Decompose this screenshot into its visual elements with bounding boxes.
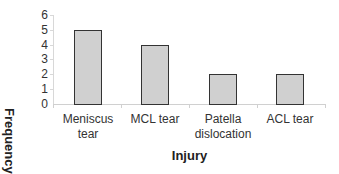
x-tick-mark [53, 104, 54, 108]
y-tick-mark [50, 74, 53, 75]
x-axis-label: Injury [53, 148, 326, 163]
category-line: MCL tear [121, 112, 189, 127]
y-tick-mark [50, 45, 53, 46]
category-line: Patella [189, 112, 257, 127]
y-tick-3: 3 [36, 53, 48, 65]
bar-meniscus-tear [74, 30, 102, 105]
y-tick-mark [50, 15, 53, 16]
y-tick-0: 0 [36, 98, 48, 110]
category-line: Meniscus [54, 112, 122, 127]
x-tick-mark [189, 104, 190, 108]
category-line: tear [54, 127, 122, 142]
x-category-label: Meniscus tear [54, 112, 122, 142]
bar-chart: Frequency 6 5 4 3 2 1 0 Meniscus tear MC… [0, 0, 339, 174]
x-tick-mark [257, 104, 258, 108]
bar-mcl-tear [141, 45, 169, 105]
y-tick-mark [50, 59, 53, 60]
y-tick-mark [50, 30, 53, 31]
bar-patella-dislocation [209, 74, 237, 105]
y-tick-1: 1 [36, 83, 48, 95]
category-line: ACL tear [256, 112, 324, 127]
y-tick-2: 2 [36, 68, 48, 80]
y-tick-mark [50, 89, 53, 90]
y-tick-4: 4 [36, 39, 48, 51]
x-category-label: MCL tear [121, 112, 189, 127]
y-tick-5: 5 [36, 24, 48, 36]
y-axis [53, 15, 54, 104]
category-line: dislocation [189, 127, 257, 142]
y-tick-6: 6 [36, 9, 48, 21]
x-category-label: Patella dislocation [189, 112, 257, 142]
x-tick-mark [325, 104, 326, 108]
x-tick-mark [121, 104, 122, 108]
x-category-label: ACL tear [256, 112, 324, 127]
bar-acl-tear [276, 74, 304, 105]
y-axis-label: Frequency [0, 108, 17, 168]
